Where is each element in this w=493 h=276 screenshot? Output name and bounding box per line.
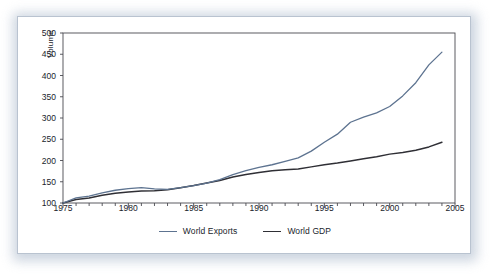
series-line-world-gdp xyxy=(63,142,442,203)
legend-swatch-icon xyxy=(263,231,281,232)
series-lines xyxy=(63,52,442,203)
plot-area xyxy=(18,17,472,255)
plot-wrap: Volume 500450400350300250200150100 19751… xyxy=(18,17,472,255)
chart-legend: World ExportsWorld GDP xyxy=(18,226,472,236)
chart-card: Volume 500450400350300250200150100 19751… xyxy=(17,16,471,254)
legend-item[interactable]: World GDP xyxy=(263,226,331,236)
legend-label: World Exports xyxy=(183,226,238,236)
legend-item[interactable]: World Exports xyxy=(159,226,238,236)
legend-swatch-icon xyxy=(159,231,177,232)
legend-label: World GDP xyxy=(287,226,331,236)
axis-lines xyxy=(63,33,455,203)
figure-root: Volume 500450400350300250200150100 19751… xyxy=(0,0,493,276)
tick-marks xyxy=(60,33,455,208)
series-line-world-exports xyxy=(63,52,442,203)
